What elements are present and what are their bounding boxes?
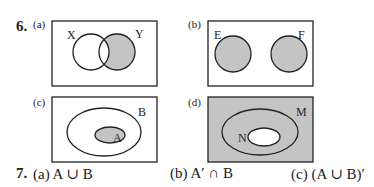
venn-diagram-b: E F [207,20,317,88]
set-m-label: M [296,105,307,119]
set-f-label: F [298,28,305,42]
question-6-number: 6. [16,18,27,35]
set-a-label: A [113,131,122,145]
part-b-label: (b) [170,165,188,181]
diagram-d-label: (d) [188,96,201,108]
question-7-part-a: (a) A ∪ B [33,165,93,183]
part-b-expression: A′ ∩ B [190,165,232,181]
set-y-label: Y [135,27,144,41]
question-7-number: 7. [16,165,27,182]
set-e-label: E [214,28,221,42]
part-c-expression: (A ∪ B)′ [311,166,364,182]
part-a-label: (a) [33,166,50,182]
set-x-label: X [67,28,76,42]
venn-diagram-a: X Y [51,20,159,88]
diagram-b-label: (b) [188,18,201,30]
set-b-label: B [138,105,146,119]
diagram-c-label: (c) [33,96,45,108]
part-c-label: (c) [291,166,308,182]
question-7-part-c: (c) (A ∪ B)′ [291,165,365,183]
set-n-label: N [238,131,247,145]
diagram-a-label: (a) [33,18,45,30]
question-7-part-b: (b) A′ ∩ B [170,165,233,182]
venn-diagram-d: N M [207,96,317,164]
part-a-expression: A ∪ B [53,166,93,182]
venn-diagram-c: A B [51,96,159,164]
